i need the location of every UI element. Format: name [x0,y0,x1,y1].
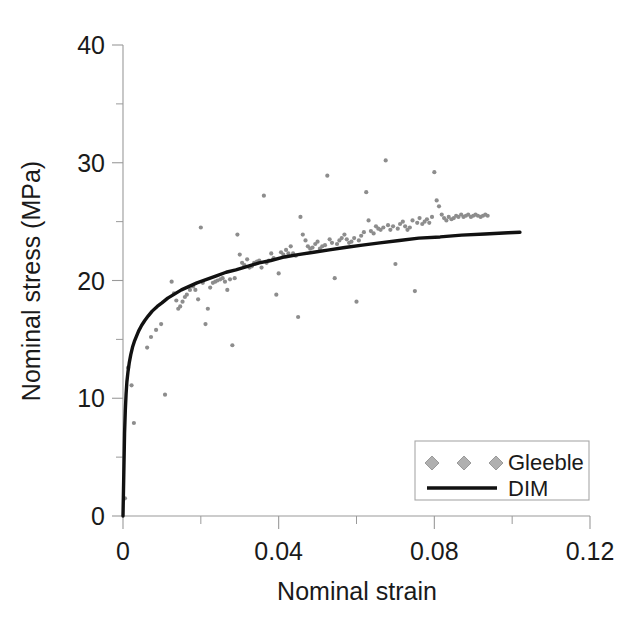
scatter-point [364,190,368,194]
scatter-point [174,298,178,302]
scatter-point [437,204,441,208]
scatter-point [415,221,419,225]
scatter-point [417,216,421,220]
x-tick-label: 0.12 [566,537,615,565]
scatter-point [427,221,431,225]
scatter-point [366,218,370,222]
scatter-point [208,285,212,289]
scatter-point [262,194,266,198]
scatter-point [388,228,392,232]
scatter-point [193,288,197,292]
y-tick-label: 10 [77,384,105,412]
scatter-point [196,297,200,301]
y-axis-title: Nominal stress (MPa) [17,161,45,401]
legend-label-dim: DIM [508,476,548,501]
scatter-point [132,421,136,425]
scatter-point [333,276,337,280]
x-tick-label: 0.08 [410,537,459,565]
scatter-point [203,322,207,326]
y-tick-label: 0 [91,502,105,530]
scatter-point [352,236,356,240]
x-axis-title: Nominal strain [277,577,437,605]
scatter-point [323,243,327,247]
scatter-point [223,280,227,284]
scatter-point [238,253,242,257]
scatter-point [230,343,234,347]
scatter-point [328,237,332,241]
scatter-point [384,158,388,162]
scatter-point [444,218,448,222]
scatter-point [362,230,366,234]
scatter-point [129,383,133,387]
scatter-point [386,223,390,227]
y-tick-label: 30 [77,149,105,177]
scatter-point [159,322,163,326]
scatter-point [149,335,153,339]
scatter-point [381,225,385,229]
scatter-point [408,225,412,229]
scatter-point [396,227,400,231]
scatter-point [354,300,358,304]
stress-strain-chart: 010203040 Nominal stress (MPa) 00.040.08… [0,0,640,632]
scatter-point [233,276,237,280]
legend-label-gleeble: Gleeble [508,450,584,475]
scatter-point [145,346,149,350]
scatter-point [296,315,300,319]
scatter-point [289,244,293,248]
scatter-point [432,170,436,174]
scatter-point [301,232,305,236]
scatter-point [345,237,349,241]
scatter-point [245,257,249,261]
x-tick-label: 0 [116,537,130,565]
scatter-point [269,251,273,255]
scatter-point [221,276,225,280]
scatter-point [163,393,167,397]
scatter-point [357,238,361,242]
scatter-point [435,198,439,202]
scatter-point [410,218,414,222]
scatter-point [235,232,239,236]
scatter-point [440,212,444,216]
scatter-point [359,234,363,238]
scatter-point [274,293,278,297]
scatter-point [372,231,376,235]
y-tick-label: 40 [77,31,105,59]
scatter-point [401,220,405,224]
scatter-point [393,262,397,266]
chart-page: 010203040 Nominal stress (MPa) 00.040.08… [0,0,640,632]
scatter-point [349,240,353,244]
chart-legend: Gleeble DIM [415,441,589,501]
scatter-point [340,236,344,240]
scatter-point [228,277,232,281]
scatter-point [425,217,429,221]
scatter-point [206,307,210,311]
scatter-point [277,271,281,275]
scatter-point [325,174,329,178]
scatter-point [403,224,407,228]
scatter-point [303,238,307,242]
scatter-point [486,214,490,218]
scatter-point [330,241,334,245]
scatter-point [259,265,263,269]
scatter-point [284,248,288,252]
scatter-point [170,280,174,284]
scatter-point [180,300,184,304]
scatter-point [315,240,319,244]
scatter-point [430,215,434,219]
chart-background [0,0,640,632]
scatter-point [335,242,339,246]
y-tick-label: 20 [77,267,105,295]
scatter-point [342,232,346,236]
scatter-point [391,224,395,228]
scatter-point [310,245,314,249]
x-tick-label: 0.04 [254,537,303,565]
scatter-point [178,304,182,308]
scatter-point [199,225,203,229]
scatter-point [154,328,158,332]
scatter-point [185,293,189,297]
scatter-point [413,289,417,293]
scatter-point [298,215,302,219]
scatter-point [225,288,229,292]
